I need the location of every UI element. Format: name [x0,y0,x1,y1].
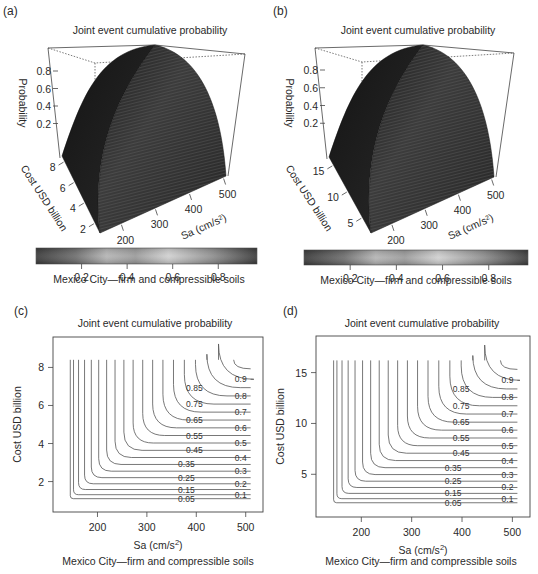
contour-label: 0.5 [235,438,247,448]
y-tick-label: 6 [38,399,44,411]
panel-a: (a) Joint event cumulative probability 0… [3,4,257,285]
box-edge-right [496,53,514,177]
y-tick [89,224,94,227]
z-tick-label: 0.4 [303,100,318,112]
caption: Mexico City—firm and compressible soils [325,555,516,567]
panel-label: (a) [3,4,18,18]
panel-label: (c) [14,304,28,318]
x-tick [392,225,394,231]
contour-label: 0.65 [186,415,203,425]
z-axis-label: Probability [284,78,296,128]
colorbar-shading [36,248,257,264]
contour-label: 0.3 [502,470,514,480]
contour-label: 0.3 [235,466,247,476]
contour-label: 0.15 [445,488,462,498]
x-tick-label: 400 [454,204,472,216]
contour-label: 0.75 [186,399,203,409]
contour-label: 0.4 [502,456,514,466]
z-tick-label: 0.2 [303,117,318,129]
y-tick-label: 4 [38,438,44,450]
y-tick-label: 5 [301,468,307,480]
caption: Mexico City—firm and compressible soils [53,273,244,285]
y-axis-label: Cost USD billion [11,386,23,463]
x-axis-label: Sa (cm/s2) [398,543,447,557]
chart-title: Joint event cumulative probability [73,24,228,36]
contour-label: 0.35 [178,459,195,469]
figure: (a) Joint event cumulative probability 0… [0,0,538,574]
x-tick-label: 500 [487,189,505,201]
contour-label: 0.75 [453,401,470,411]
x-tick [458,195,460,201]
contour-label: 0.7 [235,407,247,417]
chart-title: Joint event cumulative probability [345,317,500,329]
contour-label: 0.85 [186,383,203,393]
x-tick-label: 500 [219,188,237,200]
x-tick-label: 200 [117,234,135,246]
contour-label: 0.05 [178,494,195,504]
x-tick [425,210,427,216]
contour-label: 0.45 [186,445,203,455]
colorbar-shading [304,250,528,265]
x-tick [190,194,192,200]
x-tick-label: 300 [403,526,421,538]
z-tick-label: 0.2 [36,118,51,130]
surface-plot: 0.20.40.60.8Probability51015Cost USD bil… [284,45,514,246]
y-tick [342,192,347,195]
x-tick [492,180,494,186]
contour-label: 0.55 [453,433,470,443]
y-tick-label: 8 [50,161,56,173]
contour-label: 0.1 [235,490,247,500]
y-tick-label: 15 [295,367,307,379]
contour-label: 0.2 [502,482,514,492]
x-tick [121,225,123,231]
y-tick-label: 2 [38,476,44,488]
caption: Mexico City—firm and compressible soils [320,274,511,286]
y-tick-label: 8 [38,361,44,373]
contour-label: 0.5 [502,441,514,451]
panel-c: (c) Joint event cumulative probability 2… [11,304,263,567]
x-tick-label: 300 [151,218,169,230]
contour-label: 0.35 [445,463,462,473]
x-axis-label: Sa (cm/s2) [133,538,182,552]
contour-label: 0.8 [502,392,514,402]
x-axis-label: Sa (cm/s²) [179,211,228,242]
z-tick-label: 0.8 [303,64,318,76]
x-tick-label: 400 [453,526,471,538]
contour-label: 0.55 [186,431,203,441]
contour-label: 0.65 [453,417,470,427]
x-tick-label: 500 [237,521,255,533]
contour-label: 0.8 [235,391,247,401]
y-tick-label: 5 [347,217,353,229]
contour-label: 0.6 [502,425,514,435]
y-tick-label: 10 [295,417,307,429]
chart-title: Joint event cumulative probability [341,24,496,36]
contour-plot: 2003004005002468Sa (cm/s2)Cost USD billi… [11,337,263,551]
contour-label: 0.25 [445,476,462,486]
chart-title: Joint event cumulative probability [78,317,233,329]
contour-label: 0.45 [453,448,470,458]
contour-label: 0.4 [235,453,247,463]
panel-label: (b) [273,4,288,18]
z-axis-label: Probability [17,78,29,128]
x-tick-label: 400 [188,521,206,533]
box-edge-right [228,54,245,176]
panel-d: (d) Joint event cumulative probability 2… [274,304,530,567]
x-tick-label: 300 [138,521,156,533]
x-tick-label: 200 [89,521,107,533]
x-tick-label: 200 [353,526,371,538]
x-tick-label: 200 [387,234,405,246]
y-tick-label: 6 [60,182,66,194]
contour-label: 0.15 [178,485,195,495]
caption: Mexico City—firm and compressible soils [62,555,253,567]
y-tick [69,183,74,186]
contour-label: 0.2 [235,479,247,489]
y-tick [327,166,332,169]
x-tick [224,179,226,185]
x-tick [155,209,157,215]
z-tick-label: 0.6 [36,83,51,95]
y-tick [79,203,84,206]
x-tick-label: 500 [504,526,522,538]
contour-plot: 20030040050051015Sa (cm/s2)Cost USD bill… [274,336,530,556]
contour-label: 0.1 [502,494,514,504]
y-tick-label: 15 [313,165,325,177]
